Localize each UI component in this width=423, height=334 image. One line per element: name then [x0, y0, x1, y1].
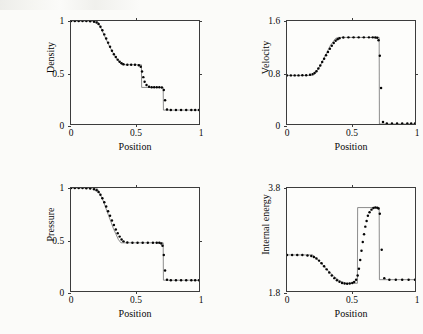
y-tick-pressure-1 — [68, 241, 71, 242]
y-tick-velocity-0 — [284, 126, 287, 127]
y-tick-right-pressure-1 — [199, 241, 202, 242]
x-ticklabel-velocity-0: 0 — [285, 128, 290, 139]
y-axis-title-density: Density — [45, 5, 56, 110]
y-tick-right-velocity-1 — [415, 74, 418, 75]
x-ticklabel-energy-2: 1 — [415, 295, 420, 306]
plot-area-velocity — [287, 21, 415, 124]
y-ticklabel-density-0: 0 — [59, 121, 67, 131]
x-ticklabel-energy-0: 0 — [285, 295, 290, 306]
x-ticklabel-pressure-0: 0 — [69, 295, 74, 306]
exact-solution-line-pressure — [71, 188, 199, 280]
y-tick-pressure-0 — [68, 293, 71, 294]
x-ticklabel-energy-1: 0.5 — [346, 295, 358, 306]
panel-pressure: Pressure 0 0.5 1 0 0.5 1 Position — [0, 167, 211, 334]
x-axis-title-velocity: Position — [335, 141, 368, 152]
exact-solution-line-velocity — [287, 37, 415, 124]
y-ticklabel-pressure-1: 0.5 — [52, 236, 67, 246]
y-tick-velocity-1 — [284, 74, 287, 75]
y-ticklabel-energy-0: 1.8 — [268, 288, 283, 298]
plot-area-internal-energy — [287, 188, 415, 291]
x-ticklabel-density-2: 1 — [199, 128, 204, 139]
y-tick-energy-0 — [284, 293, 287, 294]
x-tick-top-energy-mid — [352, 185, 353, 188]
x-ticklabel-pressure-1: 0.5 — [130, 295, 142, 306]
y-axis-title-pressure: Pressure — [45, 172, 56, 277]
x-ticklabel-velocity-1: 0.5 — [346, 128, 358, 139]
y-tick-energy-1 — [284, 188, 287, 189]
x-tick-velocity-mid — [352, 124, 353, 127]
plot-area-pressure — [71, 188, 199, 291]
y-tick-right-density-1 — [199, 74, 202, 75]
x-tick-pressure-mid — [136, 291, 137, 294]
plot-frame-density: 0 0.5 1 0 0.5 1 Position — [70, 20, 200, 125]
x-tick-energy-mid — [352, 291, 353, 294]
panel-velocity: Velocity 0 0.8 1.6 0 0.5 1 Position — [211, 0, 423, 167]
y-ticklabel-velocity-0: 0 — [275, 121, 283, 131]
y-tick-density-0 — [68, 126, 71, 127]
panel-internal-energy: Internal energy 1.8 3.8 0 0.5 1 Position — [211, 167, 423, 334]
x-axis-title-pressure: Position — [119, 308, 152, 319]
y-tick-velocity-2 — [284, 21, 287, 22]
x-axis-title-internal-energy: Position — [335, 308, 368, 319]
x-tick-top-velocity-mid — [352, 18, 353, 21]
y-ticklabel-pressure-2: 1 — [59, 183, 67, 193]
y-ticklabel-density-1: 0.5 — [52, 69, 67, 79]
x-ticklabel-density-0: 0 — [69, 128, 74, 139]
plot-frame-velocity: 0 0.8 1.6 0 0.5 1 Position — [286, 20, 416, 125]
x-tick-top-pressure-mid — [136, 185, 137, 188]
y-ticklabel-pressure-0: 0 — [59, 288, 67, 298]
panel-density: Density 0 0.5 1 0 0.5 1 Position — [0, 0, 211, 167]
numerical-points-internal-energy — [287, 206, 415, 285]
y-ticklabel-velocity-1: 0.8 — [268, 69, 283, 79]
plot-frame-pressure: 0 0.5 1 0 0.5 1 Position — [70, 187, 200, 292]
y-ticklabel-density-2: 1 — [59, 16, 67, 26]
exact-solution-line-internal-energy — [287, 208, 415, 284]
x-ticklabel-velocity-2: 1 — [415, 128, 420, 139]
y-tick-pressure-2 — [68, 188, 71, 189]
y-tick-right-density-2 — [199, 21, 202, 22]
plot-area-density — [71, 21, 199, 124]
y-ticklabel-velocity-2: 1.6 — [268, 16, 283, 26]
numerical-points-pressure — [71, 188, 199, 281]
figure-panel-grid: Density 0 0.5 1 0 0.5 1 Position Velocit… — [0, 0, 423, 334]
y-tick-density-1 — [68, 74, 71, 75]
x-ticklabel-pressure-2: 1 — [199, 295, 204, 306]
x-axis-title-density: Position — [119, 141, 152, 152]
y-ticklabel-energy-1: 3.8 — [268, 183, 283, 193]
x-tick-top-density-mid — [136, 18, 137, 21]
numerical-points-density — [71, 21, 199, 111]
y-tick-density-2 — [68, 21, 71, 22]
x-ticklabel-density-1: 0.5 — [130, 128, 142, 139]
numerical-points-velocity — [287, 36, 415, 124]
plot-frame-internal-energy: 1.8 3.8 0 0.5 1 Position — [286, 187, 416, 292]
x-tick-density-mid — [136, 124, 137, 127]
